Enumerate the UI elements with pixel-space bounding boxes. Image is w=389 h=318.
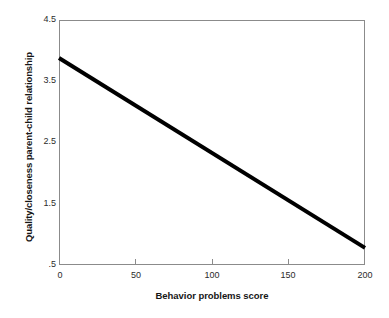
x-tick-label: 150 [268, 270, 308, 280]
y-tick-group: 4.5 [0, 15, 56, 24]
x-tick-group: 100 [192, 270, 232, 280]
x-tick-mark [288, 259, 289, 264]
x-tick-label: 50 [116, 270, 156, 280]
y-tick-label: 1.5 [8, 199, 56, 208]
chart-figure: Quality/closeness parent-child relations… [0, 0, 389, 318]
y-tick-label: 3.5 [8, 76, 56, 85]
plot-area [59, 20, 365, 265]
x-tick-label: 200 [345, 270, 385, 280]
y-tick-group: 2.5 [0, 137, 56, 146]
y-tick-group: 3.5 [0, 76, 56, 85]
y-tick-label: .5 [8, 260, 56, 269]
y-tick-group: 1.5 [0, 199, 56, 208]
y-axis-title: Quality/closeness parent-child relations… [22, 12, 36, 282]
x-tick-label: 100 [192, 270, 232, 280]
x-tick-group: 50 [116, 270, 156, 280]
x-tick-group: 150 [268, 270, 308, 280]
x-axis-title: Behavior problems score [59, 290, 365, 301]
y-tick-label: 2.5 [8, 137, 56, 146]
x-tick-label: 0 [40, 270, 80, 280]
y-tick-label: 4.5 [8, 15, 56, 24]
x-tick-mark [135, 259, 136, 264]
y-tick-group: .5 [0, 260, 56, 269]
x-tick-group: 0 [40, 270, 80, 280]
x-tick-mark [212, 259, 213, 264]
x-tick-group: 200 [345, 270, 385, 280]
